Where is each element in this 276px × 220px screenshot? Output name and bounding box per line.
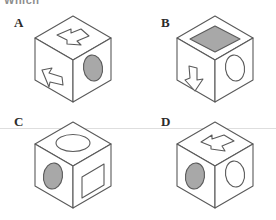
option-label-b: B — [161, 15, 170, 31]
cube-d[interactable] — [172, 118, 258, 214]
cube-c-top-ellipse-icon — [56, 135, 90, 152]
option-label-c: C — [14, 114, 23, 130]
cube-a[interactable] — [30, 12, 116, 108]
cube-b[interactable] — [172, 12, 258, 108]
question-figure-canvas: Which A B — [0, 0, 276, 220]
cube-c[interactable] — [30, 118, 116, 214]
option-label-a: A — [14, 15, 23, 31]
option-label-d: D — [161, 114, 170, 130]
truncated-header-text: Which — [4, 0, 40, 6]
